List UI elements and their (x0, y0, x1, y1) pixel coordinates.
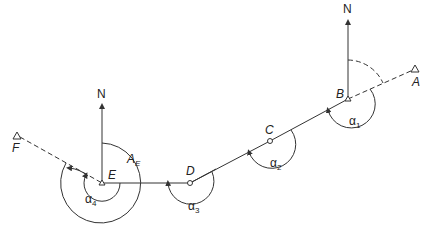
station-label-A: A (411, 75, 420, 89)
leg-C-B (270, 99, 348, 141)
angle-label-alpha4: α4 (85, 192, 97, 208)
angle-arc-arrow (69, 168, 88, 176)
traverse-diagram: N N F E D C B A AE α4 α3 α2 α1 (0, 0, 432, 238)
sight-line-B-A (348, 70, 413, 99)
angle-label-alpha2: α2 (270, 156, 282, 172)
station-label-F: F (12, 141, 20, 155)
station-label-C: C (265, 123, 274, 137)
angle-label-alpha3: α3 (188, 199, 200, 215)
station-F-triangle-icon (13, 132, 21, 139)
bearing-arc-B (348, 60, 383, 83)
angle-label-AE: AE (126, 152, 141, 168)
station-label-E: E (108, 168, 117, 182)
station-label-B: B (336, 87, 344, 101)
station-A-triangle-icon (411, 65, 419, 72)
angle-label-alpha1: α1 (349, 114, 361, 130)
station-C-circle-icon (268, 139, 273, 144)
north-label-E: N (97, 87, 106, 101)
north-label-B: N (343, 2, 352, 16)
station-label-D: D (186, 164, 195, 178)
station-D-circle-icon (188, 181, 193, 186)
